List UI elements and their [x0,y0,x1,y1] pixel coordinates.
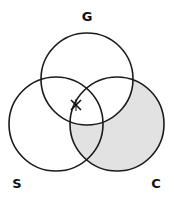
label-s: S [12,176,21,191]
label-c: C [151,176,161,191]
venn-diagram: G S C [0,0,174,197]
label-g: G [82,9,93,24]
